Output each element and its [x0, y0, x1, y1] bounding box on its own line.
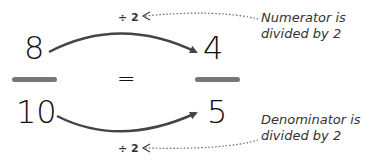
top-note: Numerator is divided by 2 — [261, 10, 346, 42]
right-numerator: 4 — [203, 32, 223, 64]
bottom-arrow — [57, 113, 196, 131]
left-numerator: 8 — [24, 32, 44, 64]
bottom-dotted-pointer — [145, 140, 258, 148]
right-denominator: 5 — [207, 96, 227, 128]
equals-sign: = — [117, 68, 135, 90]
left-denominator: 10 — [16, 96, 57, 128]
top-arrow — [49, 34, 196, 53]
bottom-note: Denominator is divided by 2 — [261, 112, 361, 144]
top-note-line2: divided by 2 — [261, 26, 346, 42]
top-dotted-pointer — [145, 13, 258, 19]
left-fraction-bar — [12, 77, 57, 82]
top-division-label: ÷ 2 — [118, 11, 139, 24]
bottom-division-label: ÷ 2 — [118, 142, 139, 155]
bottom-note-line1: Denominator is — [261, 112, 361, 128]
bottom-note-line2: divided by 2 — [261, 128, 361, 144]
top-note-line1: Numerator is — [261, 10, 346, 26]
right-fraction-bar — [195, 77, 240, 82]
